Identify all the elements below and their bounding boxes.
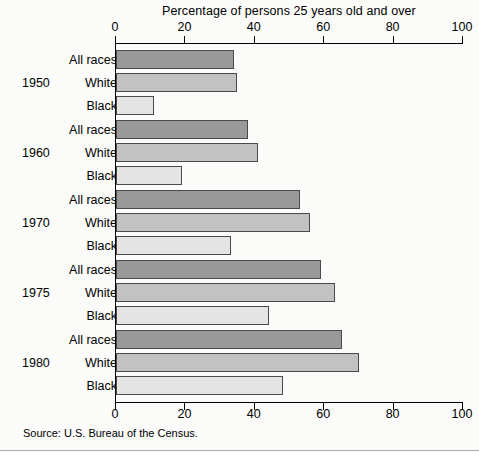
bar-label-1980-white: White bbox=[0, 353, 117, 373]
axis-top-line bbox=[115, 43, 463, 44]
tick-mark-top-80 bbox=[393, 36, 394, 44]
tick-mark-top-0 bbox=[115, 36, 116, 44]
bar-row: Black bbox=[0, 306, 479, 326]
tick-mark-top-60 bbox=[323, 36, 324, 44]
tick-top-label-40: 40 bbox=[247, 20, 261, 34]
bar-group-1960: 1960All racesWhiteBlack bbox=[0, 120, 479, 189]
bar-1960-all-races bbox=[116, 120, 248, 139]
bar-row: Black bbox=[0, 96, 479, 116]
bar-label-1970-all-races: All races bbox=[0, 190, 117, 210]
bar-label-1975-white: White bbox=[0, 283, 117, 303]
bar-label-1975-black: Black bbox=[0, 306, 117, 326]
bar-1975-all-races bbox=[116, 260, 321, 279]
bar-row: White bbox=[0, 283, 479, 303]
bar-row: All races bbox=[0, 120, 479, 140]
bar-label-1960-black: Black bbox=[0, 166, 117, 186]
bar-row: All races bbox=[0, 260, 479, 280]
tick-bottom-label-0: 0 bbox=[112, 407, 119, 421]
bar-1980-white bbox=[116, 353, 359, 372]
bar-1950-white bbox=[116, 73, 237, 92]
bar-label-1980-black: Black bbox=[0, 376, 117, 396]
tick-bottom-label-100: 100 bbox=[452, 407, 473, 421]
bar-label-1950-black: Black bbox=[0, 96, 117, 116]
bar-row: All races bbox=[0, 330, 479, 350]
axis-bottom-line bbox=[115, 402, 463, 403]
bar-label-1950-white: White bbox=[0, 73, 117, 93]
bar-row: Black bbox=[0, 376, 479, 396]
bar-row: White bbox=[0, 213, 479, 233]
page-bottom-rule bbox=[0, 450, 479, 451]
bar-row: Black bbox=[0, 166, 479, 186]
bar-label-1960-all-races: All races bbox=[0, 120, 117, 140]
bar-label-1950-all-races: All races bbox=[0, 50, 117, 70]
chart-title: Percentage of persons 25 years old and o… bbox=[115, 4, 463, 18]
chart-figure: Percentage of persons 25 years old and o… bbox=[0, 0, 479, 453]
bar-1950-black bbox=[116, 96, 154, 115]
tick-mark-top-40 bbox=[254, 36, 255, 44]
tick-bottom-label-20: 20 bbox=[177, 407, 191, 421]
bar-1970-black bbox=[116, 236, 231, 255]
bar-row: All races bbox=[0, 50, 479, 70]
bar-1980-black bbox=[116, 376, 283, 395]
tick-bottom-label-80: 80 bbox=[386, 407, 400, 421]
bar-1960-white bbox=[116, 143, 258, 162]
tick-top-label-60: 60 bbox=[316, 20, 330, 34]
bar-1975-black bbox=[116, 306, 269, 325]
bar-1970-all-races bbox=[116, 190, 300, 209]
bar-group-1975: 1975All racesWhiteBlack bbox=[0, 260, 479, 329]
bar-1970-white bbox=[116, 213, 310, 232]
tick-bottom-label-40: 40 bbox=[247, 407, 261, 421]
tick-top-label-100: 100 bbox=[452, 20, 473, 34]
bar-row: White bbox=[0, 143, 479, 163]
bar-label-1980-all-races: All races bbox=[0, 330, 117, 350]
bar-1950-all-races bbox=[116, 50, 234, 69]
bar-label-1970-black: Black bbox=[0, 236, 117, 256]
x-axis-bottom-tick-labels: 020406080100 bbox=[0, 407, 479, 422]
bar-group-1970: 1970All racesWhiteBlack bbox=[0, 190, 479, 259]
bar-1960-black bbox=[116, 166, 182, 185]
tick-mark-top-100 bbox=[462, 36, 463, 44]
tick-mark-top-20 bbox=[184, 36, 185, 44]
bar-row: All races bbox=[0, 190, 479, 210]
tick-top-label-80: 80 bbox=[386, 20, 400, 34]
tick-bottom-label-60: 60 bbox=[316, 407, 330, 421]
bar-label-1960-white: White bbox=[0, 143, 117, 163]
tick-top-label-0: 0 bbox=[112, 20, 119, 34]
bar-1980-all-races bbox=[116, 330, 342, 349]
x-axis-top-tick-labels: 020406080100 bbox=[0, 20, 479, 35]
bar-group-1950: 1950All racesWhiteBlack bbox=[0, 50, 479, 119]
bar-1975-white bbox=[116, 283, 335, 302]
tick-top-label-20: 20 bbox=[177, 20, 191, 34]
bar-label-1970-white: White bbox=[0, 213, 117, 233]
bar-label-1975-all-races: All races bbox=[0, 260, 117, 280]
bar-row: Black bbox=[0, 236, 479, 256]
bar-row: White bbox=[0, 353, 479, 373]
source-note: Source: U.S. Bureau of the Census. bbox=[23, 427, 198, 439]
bar-row: White bbox=[0, 73, 479, 93]
bar-group-1980: 1980All racesWhiteBlack bbox=[0, 330, 479, 399]
